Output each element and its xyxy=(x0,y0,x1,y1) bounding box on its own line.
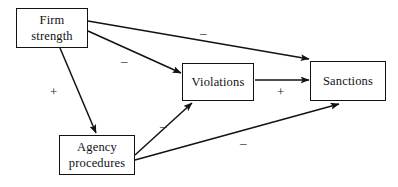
edge-firm-strength-to-agency-procedures xyxy=(60,48,96,133)
edge-sign-firm-strength-to-sanctions: – xyxy=(200,26,207,39)
node-firm-strength[interactable]: Firm strength xyxy=(16,8,88,48)
edge-sign-firm-strength-to-agency-procedures: + xyxy=(50,85,57,98)
edge-sign-agency-procedures-to-sanctions: – xyxy=(240,136,247,149)
edge-sign-agency-procedures-to-violations: – xyxy=(160,119,167,132)
node-violations[interactable]: Violations xyxy=(182,63,254,101)
edge-firm-strength-to-violations xyxy=(88,31,181,73)
node-sanctions-label: Sanctions xyxy=(321,73,375,89)
node-firm-strength-label: Firm strength xyxy=(29,12,74,44)
diagram-canvas: Firm strength Violations Sanctions Agenc… xyxy=(0,0,398,187)
edge-sign-violations-to-sanctions: + xyxy=(277,85,284,98)
node-agency-procedures[interactable]: Agency procedures xyxy=(59,135,135,175)
node-agency-procedures-label: Agency procedures xyxy=(67,139,127,171)
node-violations-label: Violations xyxy=(190,74,247,90)
node-sanctions[interactable]: Sanctions xyxy=(310,61,386,101)
edge-sign-firm-strength-to-violations: – xyxy=(121,54,128,67)
